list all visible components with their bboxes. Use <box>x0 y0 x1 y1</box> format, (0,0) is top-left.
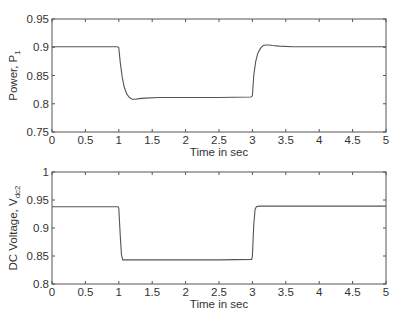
x-tick-label: 0 <box>49 286 55 298</box>
x-tick-label: 1 <box>116 134 122 146</box>
power-chart: 00.511.522.533.544.55 0.750.80.850.90.95… <box>7 13 389 158</box>
y-ticks: 0.750.80.850.90.95 <box>27 13 386 138</box>
x-ticks: 00.511.522.533.544.55 <box>49 172 389 298</box>
x-tick-label: 4.5 <box>345 286 361 298</box>
x-tick-label: 1 <box>116 286 122 298</box>
x-tick-label: 1.5 <box>144 134 160 146</box>
x-tick-label: 3.5 <box>278 286 294 298</box>
x-tick-label: 5 <box>383 286 389 298</box>
y-tick-label: 0.9 <box>33 222 49 234</box>
dc-voltage-line <box>52 206 386 260</box>
y-tick-label: 0.75 <box>27 126 49 138</box>
dc-voltage-chart: 00.511.522.533.544.55 0.80.850.90.951 Ti… <box>7 166 389 310</box>
power-line <box>52 45 386 99</box>
x-tick-label: 1.5 <box>144 286 160 298</box>
x-tick-label: 2 <box>182 286 188 298</box>
x-tick-label: 0.5 <box>77 286 93 298</box>
x-tick-label: 3 <box>249 286 255 298</box>
y-tick-label: 0.8 <box>33 278 49 290</box>
y-tick-label: 0.8 <box>33 98 49 110</box>
figure: 00.511.522.533.544.55 0.750.80.850.90.95… <box>0 0 406 324</box>
x-tick-label: 2.5 <box>211 134 227 146</box>
y-tick-label: 0.95 <box>27 13 49 25</box>
x-tick-label: 0.5 <box>77 134 93 146</box>
x-tick-label: 0 <box>49 134 55 146</box>
x-tick-label: 5 <box>383 134 389 146</box>
y-tick-label: 0.85 <box>27 70 49 82</box>
y-axis-label: DC Voltage, Vdc2 <box>7 185 22 271</box>
x-tick-label: 4.5 <box>345 134 361 146</box>
x-ticks: 00.511.522.533.544.55 <box>49 19 389 146</box>
y-ticks: 0.80.850.90.951 <box>27 166 386 290</box>
y-tick-label: 1 <box>43 166 49 178</box>
x-tick-label: 4 <box>316 134 323 146</box>
plot-area-frame <box>52 172 386 284</box>
y-tick-label: 0.85 <box>27 250 49 262</box>
x-axis-label: Time in sec <box>190 298 249 310</box>
x-tick-label: 4 <box>316 286 323 298</box>
x-tick-label: 2 <box>182 134 188 146</box>
x-tick-label: 2.5 <box>211 286 227 298</box>
plot-area-frame <box>52 19 386 132</box>
y-axis-label: Power, P1 <box>7 50 22 101</box>
x-axis-label: Time in sec <box>190 146 249 158</box>
x-tick-label: 3.5 <box>278 134 294 146</box>
y-tick-label: 0.9 <box>33 41 49 53</box>
x-tick-label: 3 <box>249 134 255 146</box>
y-tick-label: 0.95 <box>27 194 49 206</box>
